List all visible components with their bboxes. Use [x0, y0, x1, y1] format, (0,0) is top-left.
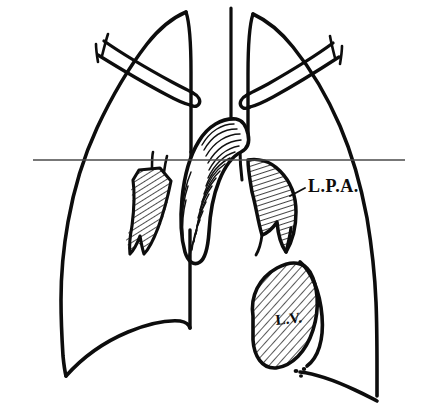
chest-anatomy-figure: L.P.A. L.V. — [0, 0, 423, 416]
lpa-label: L.P.A. — [308, 176, 359, 196]
apex-dot-3 — [299, 374, 303, 377]
apex-dot-1 — [294, 369, 299, 373]
figure-canvas: L.P.A. L.V. — [0, 0, 423, 416]
lv-label: L.V. — [275, 309, 303, 328]
apex-dot-2 — [302, 367, 306, 371]
